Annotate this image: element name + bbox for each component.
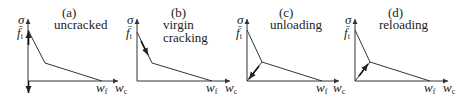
wf-label: wf: [96, 80, 108, 96]
wc-label: wc: [333, 80, 346, 96]
softening-curve: [355, 30, 430, 81]
cracking-arrow: [141, 41, 148, 55]
panel-caption: uncracked: [54, 17, 108, 32]
wc-label: wc: [115, 80, 128, 96]
wc-label: wc: [443, 80, 456, 96]
panel-caption: unloading: [270, 17, 322, 32]
panel-c: (c) unloading σ f̄t wf wc: [236, 5, 346, 96]
panel-caption-line2: cracking: [163, 30, 208, 45]
panel-caption: reloading: [379, 17, 429, 32]
panel-a: (a) uncracked σ f̄t wf wc: [17, 5, 128, 96]
softening-curve: [247, 30, 322, 81]
ft-label: f̄t: [126, 25, 133, 41]
ft-label: f̄t: [17, 25, 24, 41]
wf-label: wf: [206, 80, 218, 96]
reloading-arrow: [359, 64, 368, 76]
softening-curve: [28, 30, 102, 81]
cohesive-law-diagram: (a) uncracked σ f̄t wf wc (b) virgin cra…: [0, 0, 465, 98]
panel-d: (d) reloading σ f̄t wf wc: [344, 5, 456, 96]
wc-label: wc: [225, 80, 238, 96]
wf-label: wf: [424, 80, 436, 96]
ft-label: f̄t: [236, 25, 243, 41]
panel-b: (b) virgin cracking σ f̄t wf wc: [126, 5, 238, 96]
unloading-arrow: [249, 66, 259, 79]
wf-label: wf: [316, 80, 328, 96]
ft-label: f̄t: [344, 25, 351, 41]
